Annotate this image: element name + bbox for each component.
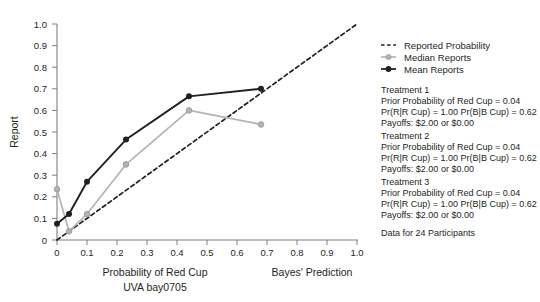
data-point [123,137,129,143]
x-tick-label: 0.2 [110,247,123,258]
data-point [258,122,264,128]
x-axis-title: Probability of Red Cup [102,266,207,278]
annotation-line: Payoffs: $2.00 or $0.00 [381,164,474,174]
y-tick-label: 1.0 [34,19,47,30]
annotation-line: Payoffs: $2.00 or $0.00 [381,118,474,128]
y-tick-label: 0.6 [34,105,47,116]
legend-point-median-reports [386,54,391,59]
x-tick-label: 0.7 [260,247,273,258]
x-tick-label: 0.8 [290,247,303,258]
annotation-block-treatment-1: Treatment 1 Prior Probability of Red Cup… [381,85,537,128]
x-tick-label: 0.6 [230,247,243,258]
data-point [186,108,192,114]
figure-container: 1.0 0.9 0.8 0.7 0.6 0.5 0.4 0.3 0.2 0.1 … [0,0,540,302]
data-point [84,211,90,217]
annotation-line: Prior Probability of Red Cup = 0.04 [381,142,520,152]
x-tick-label: 1.0 [350,247,363,258]
data-point [186,93,192,99]
y-axis-title: Report [8,116,20,148]
legend-point-mean-reports [386,66,392,72]
x-axis-ticks [57,240,357,245]
annotation-line: Pr(R|R Cup) = 1.00 Pr(B|B Cup) = 0.62 [381,199,537,209]
x-tick-label: 0 [54,247,59,258]
annotation-heading: Treatment 2 [381,131,429,141]
annotation-block-treatment-3: Treatment 3 Prior Probability of Red Cup… [381,177,537,220]
annotation-line: Pr(R|R Cup) = 1.00 Pr(B|B Cup) = 0.62 [381,107,537,117]
annotation-heading: Treatment 1 [381,85,429,95]
series-line [57,24,357,240]
y-tick-label: 0.5 [34,127,47,138]
y-axis-ticks [52,24,57,240]
y-tick-label: 0.7 [34,83,47,94]
x-tick-label: 0.4 [170,247,183,258]
x-axis-right-title: Bayes' Prediction [272,266,353,278]
annotation-line: Pr(R|R Cup) = 1.00 Pr(B|B Cup) = 0.62 [381,153,537,163]
x-tick-label: 0.5 [200,247,213,258]
series-mean-reports [54,86,264,227]
y-tick-label: 0.2 [34,191,47,202]
data-point [54,186,60,192]
y-tick-label: 0.1 [34,213,47,224]
annotation-line: Payoffs: $2.00 or $0.00 [381,210,474,220]
data-point [258,86,264,92]
series-median-reports [54,108,264,235]
series-line [57,89,261,224]
legend-label-median-reports: Median Reports [404,52,471,63]
chart-legend: Reported Probability Median Reports Mean… [381,40,490,75]
annotation-line: Prior Probability of Red Cup = 0.04 [381,188,520,198]
y-tick-label: 0.3 [34,170,47,181]
data-point [54,221,60,227]
x-axis-subtitle: UVA bay0705 [123,281,187,293]
y-tick-label: 0.8 [34,62,47,73]
data-series-layer [54,24,357,240]
data-point [84,179,90,185]
x-tick-label: 0.9 [320,247,333,258]
y-tick-label: 0 [42,235,47,246]
series-reported-probability [57,24,357,240]
data-point [66,211,72,217]
data-point [66,229,72,235]
y-tick-label: 0.4 [34,148,47,159]
annotation-heading: Treatment 3 [381,177,429,187]
x-tick-label: 0.1 [80,247,93,258]
y-tick-label: 0.9 [34,40,47,51]
legend-label-reported-probability: Reported Probability [404,40,490,51]
annotation-line: Prior Probability of Red Cup = 0.04 [381,96,520,106]
annotation-footer: Data for 24 Participants [381,228,476,238]
chart-canvas: 1.0 0.9 0.8 0.7 0.6 0.5 0.4 0.3 0.2 0.1 … [0,0,540,302]
annotation-block-treatment-2: Treatment 2 Prior Probability of Red Cup… [381,131,537,174]
data-point [123,162,129,168]
x-tick-label: 0.3 [140,247,153,258]
legend-label-mean-reports: Mean Reports [404,64,464,75]
